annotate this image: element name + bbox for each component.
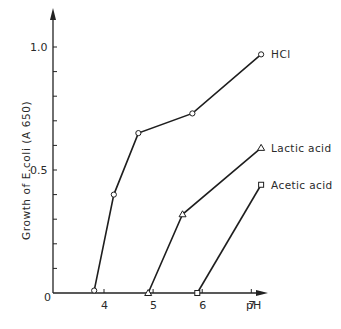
circle-marker-icon (259, 52, 264, 57)
circle-marker-icon (92, 288, 97, 293)
y-tick-label: 1.0 (30, 41, 48, 54)
circle-marker-icon (111, 192, 116, 197)
x-tick-label: 6 (199, 299, 206, 312)
y-axis: 0.51.0 (30, 8, 57, 293)
x-axis-label: pH (246, 299, 261, 312)
series-label: Acetic acid (271, 179, 333, 191)
x-axis: 4567 (53, 289, 268, 312)
x-tick-label: 5 (150, 299, 157, 312)
y-axis-arrow-icon (50, 8, 56, 20)
series-hcl: HCl (92, 48, 291, 293)
series-lactic-acid: Lactic acid (145, 142, 332, 296)
triangle-marker-icon (258, 144, 265, 150)
x-tick-label: 4 (101, 299, 108, 312)
series-label: HCl (271, 48, 290, 60)
chart: 0.51.0 4567 0 pH Growth of E.coli (A 650… (0, 0, 341, 329)
series-acetic-acid: Acetic acid (195, 179, 333, 296)
x-axis-arrow-icon (256, 290, 268, 296)
circle-marker-icon (136, 131, 141, 136)
origin-label: 0 (44, 291, 51, 304)
y-axis-label: Growth of E.coli (A 650) (20, 101, 32, 240)
series-layer: HClLactic acidAcetic acid (92, 48, 333, 295)
y-tick-label: 0.5 (30, 164, 48, 177)
square-marker-icon (195, 291, 200, 296)
circle-marker-icon (190, 111, 195, 116)
series-label: Lactic acid (271, 142, 331, 154)
square-marker-icon (259, 182, 264, 187)
